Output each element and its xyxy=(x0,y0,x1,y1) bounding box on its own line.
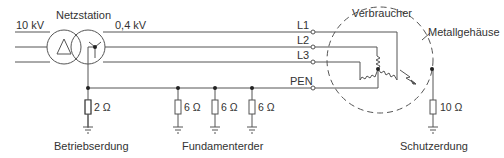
label-PEN: PEN xyxy=(290,76,313,87)
label-housing: Metallgehäuse xyxy=(428,27,500,38)
winding-L3 xyxy=(360,69,378,80)
resistor-foundation-2 xyxy=(212,100,218,114)
resistor-foundation-1 xyxy=(175,100,181,114)
label-secondary-voltage: 0,4 kV xyxy=(115,20,146,31)
housing-junction-dot xyxy=(430,67,434,71)
star-point-dot xyxy=(93,45,97,49)
resistor-foundation-3 xyxy=(249,100,255,114)
label-resistor-foundation-3: 6 Ω xyxy=(258,102,275,113)
label-consumer: Verbraucher xyxy=(352,8,412,19)
junction-dot xyxy=(213,86,217,90)
delta-icon xyxy=(57,39,71,54)
label-resistor-operating: 2 Ω xyxy=(94,102,111,113)
label-station: Netzstation xyxy=(56,10,111,21)
junction-dot xyxy=(250,86,254,90)
ground-icons xyxy=(83,127,438,133)
metal-housing-circle xyxy=(327,7,433,113)
ground-icon xyxy=(173,127,183,133)
label-resistor-foundation-1: 6 Ω xyxy=(184,102,201,113)
winding-star-dot xyxy=(376,67,380,71)
label-primary-voltage: 10 kV xyxy=(16,20,44,31)
star-wye-icon xyxy=(88,42,101,58)
label-operating-earth: Betriebserdung xyxy=(54,141,129,152)
junction-dot xyxy=(176,86,180,90)
label-L1: L1 xyxy=(297,20,309,31)
winding-L1 xyxy=(378,69,397,80)
label-L2: L2 xyxy=(297,35,309,46)
ground-icon xyxy=(428,127,438,133)
label-L3: L3 xyxy=(297,50,309,61)
label-protective-earth: Schutzerdung xyxy=(400,141,468,152)
resistor-protective xyxy=(430,100,436,114)
ground-icon xyxy=(210,127,220,133)
junction-dot xyxy=(86,86,90,90)
label-foundation-earth: Fundamenterder xyxy=(182,141,263,152)
label-resistor-protective: 10 Ω xyxy=(440,102,462,113)
label-resistor-foundation-2: 6 Ω xyxy=(221,102,238,113)
ground-icon xyxy=(247,127,257,133)
circuit-diagram xyxy=(0,0,504,158)
